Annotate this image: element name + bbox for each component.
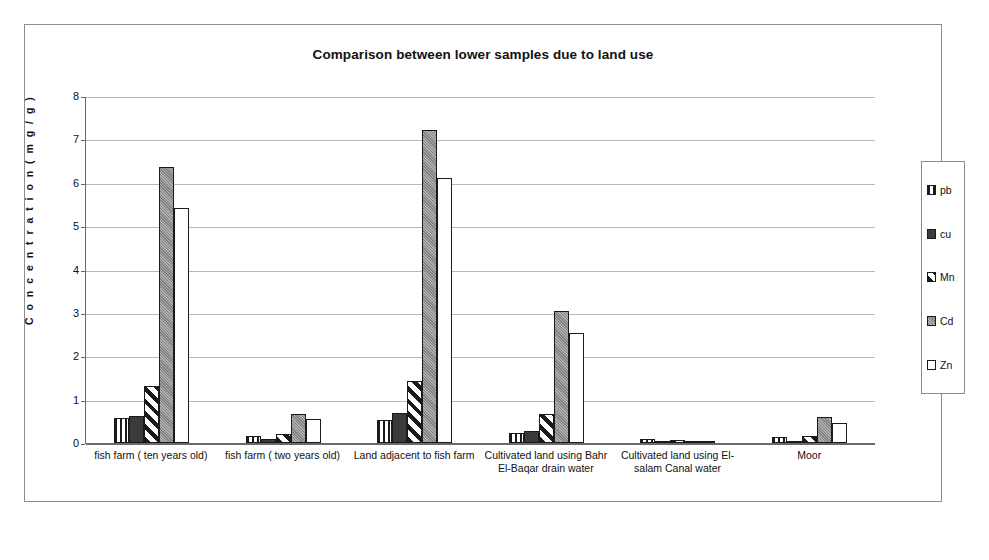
y-tick-label-6: 6 — [53, 177, 79, 189]
x-category-label-2: Land adjacent to fish farm — [348, 449, 480, 503]
legend-label-zn: Zn — [940, 359, 952, 371]
gridline-0 — [86, 444, 875, 445]
bar-cu-5 — [787, 441, 802, 443]
bar-group — [481, 97, 613, 443]
bar-pb-5 — [772, 437, 787, 443]
legend-swatch-cd-icon — [927, 316, 936, 326]
bar-cd-1 — [291, 414, 306, 443]
y-tick-mark-1 — [81, 401, 85, 402]
bar-pb-4 — [640, 439, 655, 443]
x-category-label-0: fish farm ( ten years old) — [85, 449, 217, 503]
bar-group — [349, 97, 481, 443]
y-tick-label-0: 0 — [53, 437, 79, 449]
bar-cd-2 — [422, 130, 437, 443]
bar-zn-0 — [174, 208, 189, 443]
legend-label-cd: Cd — [940, 315, 953, 327]
bar-cd-3 — [554, 311, 569, 443]
y-tick-label-2: 2 — [53, 350, 79, 362]
bar-mn-2 — [407, 381, 422, 443]
y-tick-mark-5 — [81, 227, 85, 228]
y-axis-title: C o n c e n t r a t i o n ( m g / g ) — [23, 95, 35, 325]
bar-mn-0 — [144, 386, 159, 443]
x-category-label-4: Cultivated land using El-salam Canal wat… — [612, 449, 744, 503]
y-tick-label-8: 8 — [53, 90, 79, 102]
bar-mn-4 — [670, 440, 685, 443]
bar-cu-1 — [261, 439, 276, 443]
figure-frame: Comparison between lower samples due to … — [24, 24, 942, 502]
y-tick-mark-8 — [81, 97, 85, 98]
legend-item-mn[interactable]: Mn — [927, 271, 964, 283]
legend-swatch-zn-icon — [927, 360, 936, 370]
legend-swatch-mn-icon — [927, 272, 936, 282]
bar-group — [612, 97, 744, 443]
bar-cu-3 — [524, 431, 539, 443]
bar-group — [86, 97, 218, 443]
y-tick-label-3: 3 — [53, 307, 79, 319]
legend-item-cd[interactable]: Cd — [927, 315, 964, 327]
bar-cd-5 — [817, 417, 832, 443]
bar-zn-3 — [569, 333, 584, 443]
bar-cd-4 — [685, 441, 700, 443]
bar-pb-1 — [246, 436, 261, 443]
bar-group — [744, 97, 876, 443]
legend-label-cu: cu — [940, 228, 951, 240]
bar-zn-4 — [700, 441, 715, 443]
bar-zn-2 — [437, 178, 452, 443]
y-tick-mark-2 — [81, 357, 85, 358]
bar-cu-2 — [392, 413, 407, 443]
bar-mn-5 — [802, 436, 817, 443]
bar-zn-5 — [832, 423, 847, 443]
x-category-label-3: Cultivated land using Bahr El-Baqar drai… — [480, 449, 612, 503]
legend-item-pb[interactable]: pb — [927, 184, 964, 196]
legend-swatch-pb-icon — [927, 185, 936, 195]
chart-title: Comparison between lower samples due to … — [25, 47, 941, 62]
plot-area — [85, 97, 875, 444]
x-axis-category-labels: fish farm ( ten years old)fish farm ( tw… — [85, 449, 875, 503]
bar-pb-0 — [114, 418, 129, 443]
y-tick-mark-7 — [81, 140, 85, 141]
bar-pb-2 — [377, 420, 392, 443]
bar-group — [218, 97, 350, 443]
bar-cu-0 — [129, 416, 144, 443]
legend-swatch-cu-icon — [927, 229, 936, 239]
bar-cu-4 — [655, 441, 670, 443]
y-tick-mark-4 — [81, 271, 85, 272]
bar-groups — [86, 97, 875, 443]
y-tick-mark-3 — [81, 314, 85, 315]
x-category-label-5: Moor — [743, 449, 875, 503]
bar-cd-0 — [159, 167, 174, 443]
y-tick-mark-0 — [81, 444, 85, 445]
legend: pbcuMnCdZn — [921, 161, 965, 394]
y-tick-label-5: 5 — [53, 220, 79, 232]
legend-label-mn: Mn — [940, 271, 955, 283]
legend-label-pb: pb — [940, 184, 952, 196]
legend-item-cu[interactable]: cu — [927, 228, 964, 240]
y-tick-label-7: 7 — [53, 133, 79, 145]
y-tick-mark-6 — [81, 184, 85, 185]
bar-mn-3 — [539, 414, 554, 443]
x-category-label-1: fish farm ( two years old) — [217, 449, 349, 503]
y-tick-label-1: 1 — [53, 394, 79, 406]
y-tick-label-4: 4 — [53, 264, 79, 276]
legend-item-zn[interactable]: Zn — [927, 359, 964, 371]
bar-pb-3 — [509, 433, 524, 443]
bar-mn-1 — [276, 434, 291, 443]
bar-zn-1 — [306, 419, 321, 443]
